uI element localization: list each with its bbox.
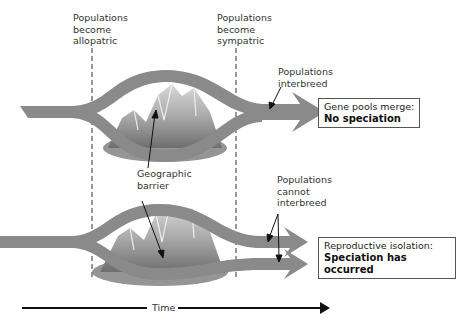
- time-arrowhead-icon: [320, 302, 330, 314]
- cannot-interbreed-pointer-1: [269, 214, 278, 238]
- label-sympatric: Populationsbecomesympatric: [217, 12, 272, 47]
- label-interbreed: Populationsinterbreed: [278, 66, 333, 89]
- cannot-interbreed-pointer-2: [278, 214, 279, 258]
- label-allopatric: Populationsbecomeallopatric: [73, 12, 128, 47]
- label-cannot-interbreed: Populationscannotinterbreed: [277, 174, 332, 209]
- outcome-speciation: Reproductive isolation:Speciation has oc…: [318, 237, 456, 279]
- outcome-no-speciation: Gene pools merge:No speciation: [318, 98, 420, 128]
- label-geographic-barrier: Geographicbarrier: [137, 168, 192, 191]
- time-axis-label: Time: [152, 302, 175, 314]
- interbreed-pointer: [272, 87, 281, 105]
